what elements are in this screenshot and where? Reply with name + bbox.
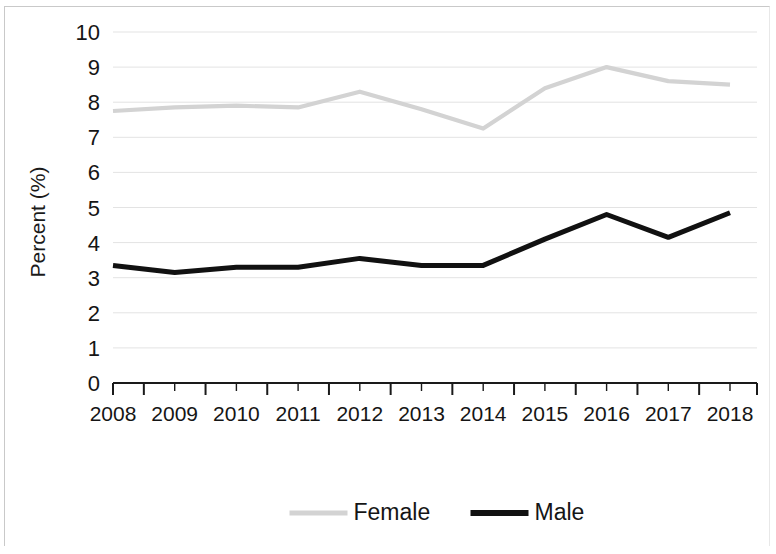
x-tick-label: 2008 (90, 402, 137, 425)
chart-legend: FemaleMale (290, 499, 585, 525)
series-line-female (113, 67, 730, 128)
chart-svg: 012345678910 Percent (%) 200820092010201… (0, 0, 776, 554)
y-axis-title: Percent (%) (26, 167, 49, 278)
x-tick-label: 2013 (398, 402, 445, 425)
y-tick-label: 7 (88, 125, 100, 150)
y-tick-label: 1 (88, 336, 100, 361)
y-tick-label: 3 (88, 266, 100, 291)
y-tick-label: 2 (88, 301, 100, 326)
x-tick-label: 2010 (213, 402, 260, 425)
x-tick-label: 2014 (460, 402, 507, 425)
y-tick-label: 0 (88, 371, 100, 396)
y-tick-label: 10 (76, 20, 100, 45)
x-axis-ticks (113, 383, 757, 395)
y-tick-label: 4 (88, 231, 100, 256)
legend-label: Female (354, 499, 431, 525)
x-tick-label: 2016 (583, 402, 630, 425)
y-tick-label: 8 (88, 90, 100, 115)
y-axis-tick-labels: 012345678910 (76, 20, 100, 396)
x-tick-label: 2012 (336, 402, 383, 425)
x-tick-label: 2011 (276, 402, 321, 425)
x-axis-tick-labels: 2008200920102011201220132014201520162017… (90, 402, 754, 425)
legend-label: Male (535, 499, 585, 525)
line-chart: 012345678910 Percent (%) 200820092010201… (0, 0, 776, 554)
y-tick-label: 9 (88, 55, 100, 80)
x-tick-label: 2017 (645, 402, 692, 425)
x-tick-label: 2009 (151, 402, 198, 425)
x-tick-label: 2015 (522, 402, 569, 425)
x-tick-label: 2018 (707, 402, 754, 425)
y-tick-label: 6 (88, 160, 100, 185)
y-tick-label: 5 (88, 196, 100, 221)
